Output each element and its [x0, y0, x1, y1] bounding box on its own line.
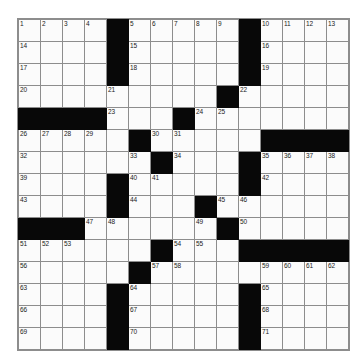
crossword-cell[interactable]: [151, 284, 173, 306]
crossword-cell[interactable]: 28: [63, 130, 85, 152]
crossword-grid[interactable]: 1234567891011121314151617181920212223242…: [18, 19, 349, 350]
crossword-cell[interactable]: [217, 130, 239, 152]
crossword-cell[interactable]: 26: [19, 130, 41, 152]
crossword-cell[interactable]: [151, 328, 173, 350]
crossword-cell[interactable]: 3: [63, 20, 85, 42]
crossword-cell[interactable]: 55: [195, 240, 217, 262]
crossword-cell[interactable]: [283, 218, 305, 240]
crossword-cell[interactable]: [195, 152, 217, 174]
crossword-cell[interactable]: 38: [327, 152, 349, 174]
crossword-cell[interactable]: [63, 42, 85, 64]
crossword-cell[interactable]: 13: [327, 20, 349, 42]
crossword-cell[interactable]: 58: [173, 262, 195, 284]
crossword-cell[interactable]: [327, 196, 349, 218]
crossword-cell[interactable]: [173, 328, 195, 350]
crossword-cell[interactable]: 20: [19, 86, 41, 108]
crossword-cell[interactable]: 32: [19, 152, 41, 174]
crossword-cell[interactable]: [63, 306, 85, 328]
crossword-cell[interactable]: 23: [107, 108, 129, 130]
crossword-cell[interactable]: [283, 306, 305, 328]
crossword-cell[interactable]: [63, 64, 85, 86]
crossword-cell[interactable]: 14: [19, 42, 41, 64]
crossword-cell[interactable]: 57: [151, 262, 173, 284]
crossword-cell[interactable]: 70: [129, 328, 151, 350]
crossword-cell[interactable]: [283, 284, 305, 306]
crossword-cell[interactable]: 71: [261, 328, 283, 350]
crossword-cell[interactable]: 10: [261, 20, 283, 42]
crossword-cell[interactable]: 18: [129, 64, 151, 86]
crossword-cell[interactable]: [195, 174, 217, 196]
crossword-cell[interactable]: 46: [239, 196, 261, 218]
crossword-cell[interactable]: 44: [129, 196, 151, 218]
crossword-cell[interactable]: [41, 262, 63, 284]
crossword-cell[interactable]: [151, 42, 173, 64]
crossword-cell[interactable]: [217, 306, 239, 328]
crossword-cell[interactable]: [217, 42, 239, 64]
crossword-cell[interactable]: 6: [151, 20, 173, 42]
crossword-cell[interactable]: [63, 196, 85, 218]
crossword-cell[interactable]: [305, 86, 327, 108]
crossword-cell[interactable]: [305, 174, 327, 196]
crossword-cell[interactable]: [107, 262, 129, 284]
crossword-cell[interactable]: [327, 306, 349, 328]
crossword-cell[interactable]: [151, 218, 173, 240]
crossword-cell[interactable]: 63: [19, 284, 41, 306]
crossword-cell[interactable]: 11: [283, 20, 305, 42]
crossword-cell[interactable]: [239, 108, 261, 130]
crossword-cell[interactable]: [217, 174, 239, 196]
crossword-cell[interactable]: [129, 108, 151, 130]
crossword-cell[interactable]: [327, 64, 349, 86]
crossword-cell[interactable]: 53: [63, 240, 85, 262]
crossword-cell[interactable]: [173, 306, 195, 328]
crossword-cell[interactable]: [41, 152, 63, 174]
crossword-cell[interactable]: [85, 262, 107, 284]
crossword-cell[interactable]: 51: [19, 240, 41, 262]
crossword-cell[interactable]: [305, 64, 327, 86]
crossword-cell[interactable]: [63, 86, 85, 108]
crossword-cell[interactable]: [85, 86, 107, 108]
crossword-cell[interactable]: [195, 262, 217, 284]
crossword-cell[interactable]: 36: [283, 152, 305, 174]
crossword-cell[interactable]: 2: [41, 20, 63, 42]
crossword-cell[interactable]: [173, 42, 195, 64]
crossword-cell[interactable]: 35: [261, 152, 283, 174]
crossword-cell[interactable]: 62: [327, 262, 349, 284]
crossword-cell[interactable]: 56: [19, 262, 41, 284]
crossword-cell[interactable]: 67: [129, 306, 151, 328]
crossword-cell[interactable]: 69: [19, 328, 41, 350]
crossword-puzzle[interactable]: 1234567891011121314151617181920212223242…: [17, 18, 350, 351]
crossword-cell[interactable]: [239, 262, 261, 284]
crossword-cell[interactable]: [283, 328, 305, 350]
crossword-cell[interactable]: 37: [305, 152, 327, 174]
crossword-cell[interactable]: [41, 64, 63, 86]
crossword-cell[interactable]: [195, 64, 217, 86]
crossword-cell[interactable]: 1: [19, 20, 41, 42]
crossword-cell[interactable]: 52: [41, 240, 63, 262]
crossword-cell[interactable]: 31: [173, 130, 195, 152]
crossword-cell[interactable]: 65: [261, 284, 283, 306]
crossword-cell[interactable]: 43: [19, 196, 41, 218]
crossword-cell[interactable]: [327, 86, 349, 108]
crossword-cell[interactable]: [41, 174, 63, 196]
crossword-cell[interactable]: 61: [305, 262, 327, 284]
crossword-cell[interactable]: [41, 86, 63, 108]
crossword-cell[interactable]: [195, 328, 217, 350]
crossword-cell[interactable]: 60: [283, 262, 305, 284]
crossword-cell[interactable]: [151, 306, 173, 328]
crossword-cell[interactable]: [85, 42, 107, 64]
crossword-cell[interactable]: [327, 174, 349, 196]
crossword-cell[interactable]: [41, 42, 63, 64]
crossword-cell[interactable]: 49: [195, 218, 217, 240]
crossword-cell[interactable]: [41, 328, 63, 350]
crossword-cell[interactable]: [261, 196, 283, 218]
crossword-cell[interactable]: [305, 306, 327, 328]
crossword-cell[interactable]: 27: [41, 130, 63, 152]
crossword-cell[interactable]: [327, 108, 349, 130]
crossword-cell[interactable]: [283, 64, 305, 86]
crossword-cell[interactable]: [195, 306, 217, 328]
crossword-cell[interactable]: [85, 328, 107, 350]
crossword-cell[interactable]: 22: [239, 86, 261, 108]
crossword-cell[interactable]: [217, 328, 239, 350]
crossword-cell[interactable]: [151, 196, 173, 218]
crossword-cell[interactable]: 17: [19, 64, 41, 86]
